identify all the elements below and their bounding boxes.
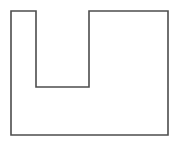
figure-canvas	[0, 0, 178, 141]
notched-rectangle-drawing	[0, 0, 178, 141]
notched-rectangle-shape	[11, 11, 168, 135]
